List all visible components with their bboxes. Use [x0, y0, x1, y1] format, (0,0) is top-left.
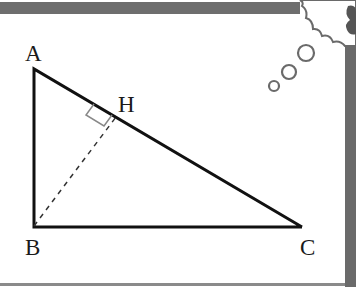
- thought-cloud-icon: [300, 0, 356, 46]
- thought-bubbles-icon: [269, 45, 314, 91]
- vertex-label-c: C: [300, 236, 315, 259]
- triangle-abc: [34, 69, 302, 227]
- triangle-sides: [34, 69, 302, 227]
- vertex-label-a: A: [25, 42, 42, 65]
- vertex-label-h: H: [118, 93, 135, 116]
- diagram-frame: A H B C: [0, 0, 356, 287]
- vertex-label-b: B: [25, 236, 40, 259]
- altitude-bh: [34, 117, 116, 226]
